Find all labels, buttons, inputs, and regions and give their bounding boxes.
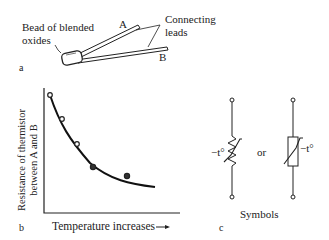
- y-axis-label-line2: between A and B: [28, 85, 40, 235]
- resistance-graph: [44, 88, 180, 229]
- bead-label: Bead of blended: [22, 21, 94, 33]
- symbol-right-label: −t°: [300, 142, 314, 154]
- or-label: or: [257, 146, 266, 158]
- data-points: [48, 93, 130, 179]
- panel-c-label: c: [219, 222, 223, 234]
- bead-label-line2: oxides: [22, 34, 51, 46]
- fit-curve: [50, 95, 155, 187]
- graph-axes: [44, 88, 180, 213]
- leads-label: Connecting: [165, 13, 216, 25]
- y-axis-label-line1: Resistance of thermistor: [16, 85, 28, 235]
- lead-a-label: A: [119, 18, 127, 30]
- x-axis-label: Temperature increases: [52, 220, 155, 232]
- lead-b-label: B: [159, 51, 166, 63]
- symbol-left-label: −t°: [211, 146, 225, 158]
- panel-a-label: a: [19, 62, 23, 74]
- y-axis-label: Resistance of thermistor between A and B: [16, 85, 40, 235]
- leads-label-line2: leads: [165, 26, 188, 38]
- panel-b-label: b: [19, 222, 24, 234]
- symbols-caption: Symbols: [240, 208, 279, 220]
- thermistor-symbol-zigzag: [224, 98, 242, 199]
